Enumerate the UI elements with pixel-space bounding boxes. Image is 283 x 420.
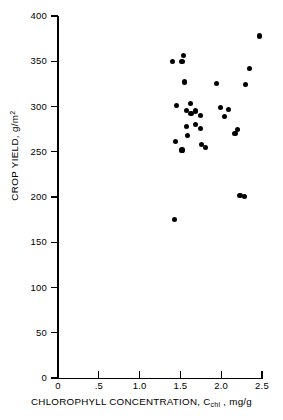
y-tick-label: 50 xyxy=(36,328,47,338)
data-point xyxy=(179,59,184,64)
x-tick-label: 0 xyxy=(55,381,60,391)
data-point xyxy=(170,59,175,64)
data-point xyxy=(181,53,186,58)
data-point xyxy=(247,66,252,71)
data-point xyxy=(243,82,248,87)
scatter-plot-figure: 050100150200250300350400 0.51.01.52.02.5… xyxy=(0,0,283,420)
y-tick-label: 150 xyxy=(31,237,47,247)
data-point xyxy=(232,131,237,136)
y-tick xyxy=(51,287,58,288)
data-point xyxy=(203,145,208,150)
y-tick xyxy=(51,106,58,107)
data-point xyxy=(235,127,240,132)
x-tick-label: 2.5 xyxy=(255,381,269,391)
y-tick xyxy=(51,151,58,152)
data-point xyxy=(222,114,227,119)
data-point xyxy=(188,101,193,106)
data-point xyxy=(173,139,178,144)
x-tick-label: 1.5 xyxy=(173,381,187,391)
x-tick-label: .5 xyxy=(95,381,103,391)
y-tick-label: 250 xyxy=(31,147,47,157)
y-tick xyxy=(51,15,58,16)
y-tick xyxy=(51,196,58,197)
x-tick-label: 1.0 xyxy=(133,381,147,391)
y-tick xyxy=(51,377,58,378)
y-tick xyxy=(51,242,58,243)
x-axis-title: CHLOROPHYLL CONCENTRATION, Cchl , mg/g xyxy=(0,396,283,408)
data-point xyxy=(172,217,177,222)
y-tick-label: 400 xyxy=(31,11,47,21)
y-tick-label: 300 xyxy=(31,102,47,112)
data-point xyxy=(185,133,190,138)
plot-area xyxy=(58,16,262,378)
data-point xyxy=(174,103,179,108)
data-point xyxy=(242,194,247,199)
data-point xyxy=(179,147,184,152)
y-tick-label: 0 xyxy=(42,373,47,383)
y-tick-label: 100 xyxy=(31,283,47,293)
x-axis-title-subscript: chl xyxy=(211,401,221,408)
x-tick-label: 2.0 xyxy=(214,381,228,391)
y-tick-label: 200 xyxy=(31,192,47,202)
data-point xyxy=(198,113,203,118)
y-tick xyxy=(51,332,58,333)
y-axis-title-exponent: 2 xyxy=(9,110,16,114)
data-point xyxy=(226,107,231,112)
data-point xyxy=(198,126,203,131)
y-axis-title: CROP YIELD, g/m2 xyxy=(9,66,20,246)
data-point xyxy=(214,81,219,86)
data-point xyxy=(257,33,262,38)
y-tick xyxy=(51,61,58,62)
y-tick-label: 350 xyxy=(31,56,47,66)
data-point xyxy=(184,124,189,129)
data-point xyxy=(218,105,223,110)
data-point xyxy=(182,79,187,84)
